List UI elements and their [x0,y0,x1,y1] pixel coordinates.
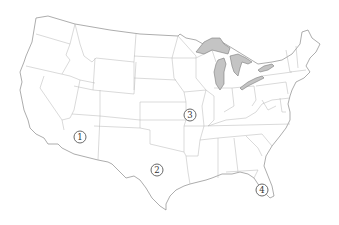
marker-3: 3 [184,109,197,122]
marker-1: 1 [74,131,87,144]
marker-2: 2 [151,164,164,177]
marker-4: 4 [256,184,269,197]
us-map-svg [0,0,339,225]
us-outline [20,16,320,210]
